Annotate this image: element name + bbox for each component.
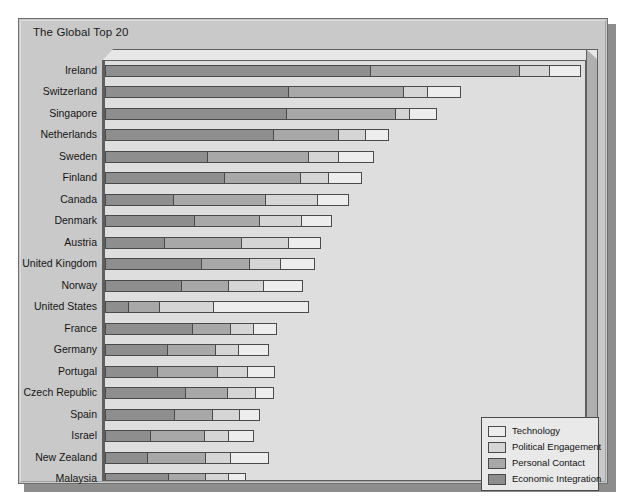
bar-segment-personal-contact [224,172,302,184]
bar-segment-technology [263,280,303,292]
bar-segment-political-engagement [403,86,428,98]
y-axis-label: Spain [19,408,97,420]
bar-segment-technology [255,387,274,399]
bar-segment-personal-contact [128,301,160,313]
stacked-bar [105,86,461,98]
y-axis-label: Malaysia [19,472,97,484]
y-axis-label: Finland [19,171,97,183]
legend-swatch-icon [488,474,506,485]
bar-segment-personal-contact [286,108,396,120]
bar-segment-economic-integration [105,151,208,163]
bar-segment-economic-integration [105,172,225,184]
stacked-bar [105,151,374,163]
stacked-bar [105,473,246,481]
bar-segment-technology [247,366,275,378]
bar-segment-personal-contact [173,194,266,206]
bar-segment-political-engagement [217,366,248,378]
y-axis-label: Portugal [19,365,97,377]
bar-segment-technology [288,237,321,249]
chart-legend: TechnologyPolitical EngagementPersonal C… [481,417,599,491]
y-axis-label: Germany [19,343,97,355]
bar-segment-technology [228,473,245,481]
bar-segment-economic-integration [105,86,289,98]
bar-segment-economic-integration [105,108,287,120]
bar-segment-technology [427,86,461,98]
y-axis-labels: IrelandSwitzerlandSingaporeNetherlandsSw… [19,60,97,492]
legend-item-political-engagement: Political Engagement [488,439,592,455]
bar-segment-political-engagement [395,108,410,120]
stacked-bar [105,258,315,270]
bar-segment-technology [280,258,315,270]
bar-segment-technology [213,301,309,313]
y-axis-label: France [19,322,97,334]
legend-label: Economic Integration [512,474,601,484]
y-axis-label: Norway [19,279,97,291]
bar-segment-political-engagement [215,344,239,356]
bar-segment-economic-integration [105,430,151,442]
stacked-bar [105,452,269,464]
bar-segment-economic-integration [105,65,371,77]
legend-item-personal-contact: Personal Contact [488,455,592,471]
stacked-bar [105,366,275,378]
y-axis-label: Denmark [19,214,97,226]
bar-segment-economic-integration [105,215,195,227]
bar-segment-technology [238,344,269,356]
bar-segment-economic-integration [105,387,186,399]
y-axis-label: United States [19,300,97,312]
legend-item-economic-integration: Economic Integration [488,471,592,487]
chart-card: The Global Top 20 IrelandSwitzerlandSing… [18,18,608,484]
stacked-bar [105,430,254,442]
bar-segment-personal-contact [288,86,404,98]
bar-segment-political-engagement [230,323,254,335]
bar-segment-technology [253,323,277,335]
y-axis-label: Austria [19,236,97,248]
bar-segment-personal-contact [201,258,250,270]
bar-segment-personal-contact [192,323,231,335]
y-axis-label: Switzerland [19,85,97,97]
bar-segment-personal-contact [168,473,206,481]
stacked-bar [105,194,349,206]
stacked-bar [105,280,303,292]
bar-segment-political-engagement [205,473,229,481]
y-axis-label: Czech Republic [19,386,97,398]
bar-segment-economic-integration [105,452,148,464]
y-axis-label: Israel [19,429,97,441]
stacked-bar [105,215,332,227]
y-axis-label: Ireland [19,64,97,76]
stacked-bar [105,65,581,77]
page-title: The Global Top 20 [33,26,128,38]
bar-segment-technology [230,452,269,464]
bar-segment-technology [549,65,581,77]
legend-label: Personal Contact [512,458,585,468]
bar-segment-political-engagement [227,387,256,399]
y-axis-label: Singapore [19,107,97,119]
legend-swatch-icon [488,442,506,453]
bar-segment-political-engagement [519,65,550,77]
bar-segment-political-engagement [205,452,231,464]
legend-label: Technology [512,426,560,436]
bar-segment-technology [338,151,374,163]
bar-segment-political-engagement [159,301,214,313]
bar-segment-political-engagement [249,258,281,270]
bar-segment-technology [228,430,254,442]
y-axis-label: New Zealand [19,451,97,463]
bar-segment-personal-contact [164,237,242,249]
bar-segment-technology [301,215,332,227]
legend-swatch-icon [488,458,506,469]
bar-segment-political-engagement [265,194,318,206]
legend-label: Political Engagement [512,442,601,452]
stacked-bar [105,129,389,141]
bar-segment-technology [365,129,389,141]
stacked-bar [105,323,277,335]
bar-segment-political-engagement [212,409,241,421]
bar-segment-political-engagement [241,237,289,249]
bar-segment-personal-contact [370,65,520,77]
chart-screenshot: The Global Top 20 IrelandSwitzerlandSing… [0,0,626,502]
bar-segment-personal-contact [150,430,205,442]
bar-segment-personal-contact [185,387,228,399]
bar-segment-economic-integration [105,129,274,141]
bar-segment-personal-contact [273,129,339,141]
bar-segment-economic-integration [105,194,174,206]
bar-segment-political-engagement [204,430,229,442]
bar-segment-political-engagement [228,280,264,292]
